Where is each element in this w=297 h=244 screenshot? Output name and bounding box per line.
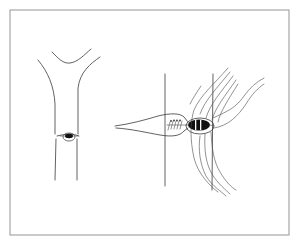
figure-frame bbox=[10, 10, 289, 235]
diagram-figure bbox=[0, 0, 297, 244]
diagram-canvas bbox=[0, 0, 297, 244]
